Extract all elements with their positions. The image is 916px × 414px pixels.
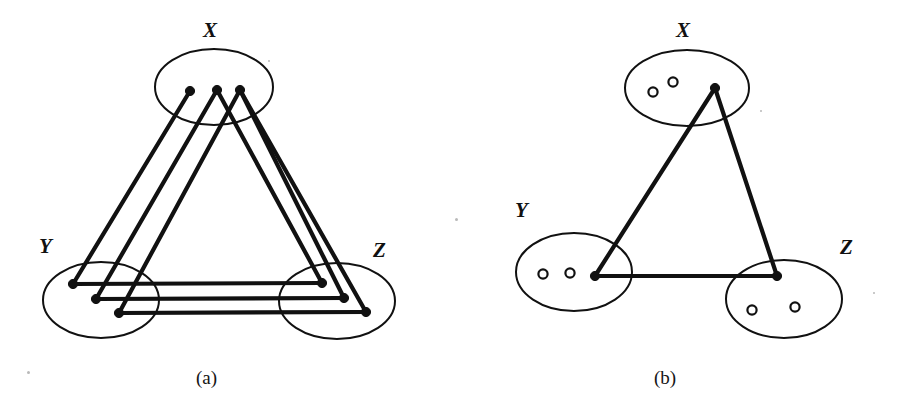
set-ellipses bbox=[516, 50, 842, 338]
graph-edge bbox=[96, 298, 344, 299]
graph-vertices bbox=[538, 77, 799, 314]
vertex-filled-y3 bbox=[590, 271, 599, 280]
vertex-open-z1 bbox=[747, 305, 756, 314]
vertex-open-y1 bbox=[538, 269, 547, 278]
figure-panel-a: X Y Z (a) bbox=[0, 0, 458, 414]
set-label-z-a: Z bbox=[373, 240, 386, 261]
graph-edge bbox=[217, 90, 322, 283]
graph-edge bbox=[73, 283, 322, 284]
graph-edge bbox=[119, 312, 366, 313]
graph-edge bbox=[119, 90, 240, 313]
vertex-filled-x2 bbox=[212, 85, 221, 94]
vertex-filled-x3 bbox=[235, 85, 244, 94]
scan-speck bbox=[455, 218, 458, 221]
set-label-x-b: X bbox=[676, 20, 690, 41]
vertex-open-x2 bbox=[668, 77, 677, 86]
set-label-z-b: Z bbox=[840, 237, 853, 258]
set-ellipse-z bbox=[726, 260, 842, 338]
set-label-y-b: Y bbox=[515, 200, 528, 221]
graph-edge bbox=[96, 90, 217, 299]
vertex-open-y2 bbox=[565, 268, 574, 277]
set-ellipse-x bbox=[625, 50, 749, 126]
scan-speck bbox=[760, 110, 762, 112]
panel-a-drawing bbox=[0, 0, 458, 414]
graph-edges bbox=[595, 88, 777, 276]
vertex-filled-x1 bbox=[185, 86, 194, 95]
graph-edge bbox=[240, 90, 366, 312]
scan-speck bbox=[27, 371, 30, 374]
vertex-filled-y3 bbox=[114, 308, 123, 317]
graph-edge bbox=[595, 88, 715, 276]
vertex-filled-y1 bbox=[68, 279, 77, 288]
vertex-filled-y2 bbox=[91, 294, 100, 303]
panel-caption-b: (b) bbox=[654, 368, 676, 387]
scan-speck bbox=[873, 292, 875, 294]
figure-container: X Y Z (a) X Y Z (b) bbox=[0, 0, 916, 414]
graph-edge bbox=[715, 88, 777, 276]
vertex-open-z2 bbox=[790, 302, 799, 311]
set-label-y-a: Y bbox=[39, 236, 52, 257]
vertex-filled-z3 bbox=[772, 271, 781, 280]
vertex-filled-z3 bbox=[361, 307, 370, 316]
panel-caption-a: (a) bbox=[196, 368, 217, 387]
scan-speck bbox=[268, 60, 270, 62]
vertex-filled-z1 bbox=[317, 278, 326, 287]
set-label-x-a: X bbox=[203, 20, 217, 41]
figure-panel-b: X Y Z (b) bbox=[458, 0, 916, 414]
vertex-filled-x3 bbox=[710, 83, 719, 92]
graph-edge bbox=[73, 91, 190, 284]
set-ellipse-z bbox=[279, 263, 395, 339]
vertex-filled-z2 bbox=[339, 293, 348, 302]
vertex-open-x1 bbox=[648, 87, 657, 96]
